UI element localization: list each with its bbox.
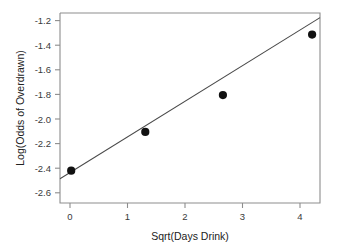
data-point <box>219 91 227 99</box>
x-tick-label: 3 <box>240 211 245 222</box>
x-axis-title: Sqrt(Days Drink) <box>151 230 229 242</box>
y-tick-label: -2.0 <box>35 114 51 125</box>
data-point <box>308 30 316 38</box>
x-tick-label: 2 <box>182 211 187 222</box>
scatter-plot: -1.2 -1.4 -1.6 -1.8 -2.0 -2.2 -2.4 -2.6 … <box>0 0 338 251</box>
data-point <box>141 128 149 136</box>
y-tick-label: -1.6 <box>35 64 51 75</box>
x-tick-label: 1 <box>125 211 130 222</box>
x-tick-label: 0 <box>67 211 72 222</box>
data-point <box>67 167 75 175</box>
x-tick-label: 4 <box>297 211 302 222</box>
y-axis-title: Log(Odds of Overdrawn) <box>14 50 26 166</box>
y-tick-label: -1.8 <box>35 89 51 100</box>
y-tick-label: -1.2 <box>35 15 51 26</box>
y-tick-label: -2.2 <box>35 138 51 149</box>
chart-figure: -1.2 -1.4 -1.6 -1.8 -2.0 -2.2 -2.4 -2.6 … <box>0 0 338 251</box>
y-tick-label: -2.4 <box>35 163 51 174</box>
y-tick-label: -2.6 <box>35 187 51 198</box>
y-tick-label: -1.4 <box>35 40 51 51</box>
